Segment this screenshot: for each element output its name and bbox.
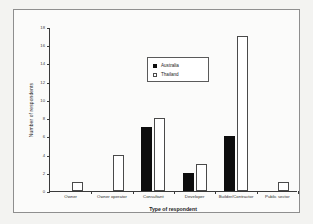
bar-thailand-developer [196,164,207,191]
y-tick-mark [47,192,50,193]
x-tick-mark [257,191,258,194]
y-tick-mark [47,46,50,47]
bar-thailand-builder-contractor [237,36,248,191]
y-axis-title: Number of respondents [28,83,34,137]
legend-swatch-australia [153,64,157,68]
legend-item-thailand: Thailand [153,70,208,79]
bar-australia-consultant [141,127,152,191]
x-tick-mark [174,191,175,194]
figure-canvas: Number of respondents 024681012141618 Ow… [0,0,313,224]
y-tick-mark [47,156,50,157]
y-tick-mark [47,64,50,65]
y-tick-mark [47,28,50,29]
x-tick-label: Owner operator [97,195,127,199]
x-tick-label: Developer [185,195,205,199]
legend-item-australia: Australia [153,61,208,70]
y-tick-mark [47,137,50,138]
y-tick-label: 2 [43,172,45,176]
x-tick-label: Owner [64,195,77,199]
bar-thailand-owner-operator [113,155,124,191]
bar-australia-builder-contractor [224,136,235,191]
x-tick-mark [91,191,92,194]
y-tick-mark [47,83,50,84]
y-tick-label: 10 [40,99,45,103]
x-axis-title: Type of respondent [149,206,197,212]
legend-label-australia: Australia [161,63,179,68]
figure-frame: Number of respondents 024681012141618 Ow… [13,9,300,213]
y-tick-label: 0 [43,190,45,194]
x-tick-mark [298,191,299,194]
y-tick-label: 4 [43,153,45,157]
y-tick-label: 14 [40,62,45,66]
x-tick-label: Builder/Contractor [219,195,254,199]
y-tick-label: 18 [40,26,45,30]
y-tick-label: 6 [43,135,45,139]
x-tick-label: Public sector [265,195,290,199]
legend-swatch-thailand [153,73,157,77]
bar-thailand-owner [72,182,83,191]
bar-australia-developer [183,173,194,191]
legend-label-thailand: Thailand [161,72,179,77]
y-tick-mark [47,174,50,175]
chart-legend: Australia Thailand [147,57,209,82]
y-tick-mark [47,119,50,120]
x-tick-label: Consultant [143,195,164,199]
x-tick-mark [215,191,216,194]
bar-thailand-consultant [154,118,165,191]
bar-thailand-public-sector [278,182,289,191]
y-tick-mark [47,101,50,102]
y-tick-label: 12 [40,81,45,85]
x-tick-mark [133,191,134,194]
y-tick-label: 16 [40,44,45,48]
y-tick-label: 8 [43,117,45,121]
plot-area: 024681012141618 OwnerOwner operatorConsu… [49,28,297,192]
